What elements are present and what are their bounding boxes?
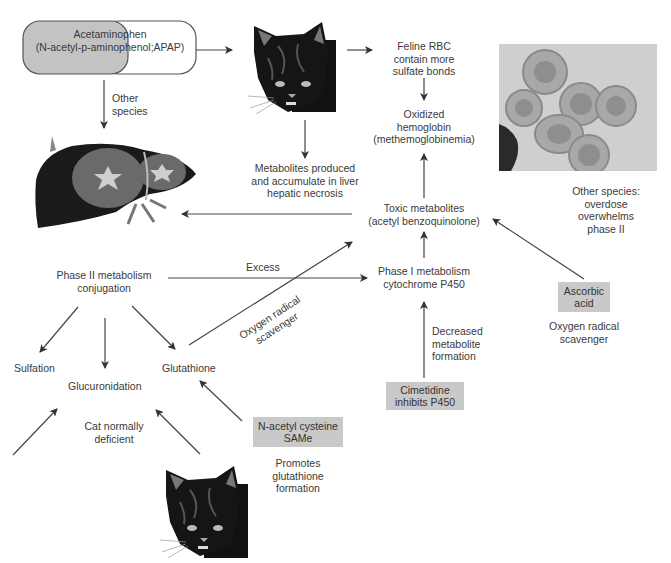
glutathione-label: Glutathione — [162, 362, 216, 375]
cat-top-illustration — [248, 18, 340, 114]
arrow-nac-to-glutathione — [200, 381, 242, 421]
rbc-micrograph — [499, 44, 657, 171]
oxidized-hemoglobin-label: Oxidized hemoglobin (methemoglobinemia) — [366, 108, 482, 146]
metabolites-liver-label: Metabolites produced and accumulate in l… — [230, 162, 380, 200]
feline-rbc-label: Feline RBC contain more sulfate bonds — [366, 40, 482, 78]
liver-illustration — [32, 130, 200, 230]
arrow-phase2-to-sulfation — [40, 307, 78, 352]
other-species-label: Other species — [112, 92, 148, 117]
arrow-cat-to-glucuronidation — [156, 410, 200, 454]
ascorbic-acid-box: Ascorbic acid — [558, 282, 610, 312]
other-species-overdose-label: Other species: overdose overwhelms phase… — [548, 185, 664, 235]
excess-label: Excess — [246, 261, 280, 274]
toxic-metabolites-label: Toxic metabolites (acetyl benzoquinolone… — [352, 202, 496, 227]
promotes-glutathione-label: Promotes glutathione formation — [258, 457, 338, 495]
phase-two-label: Phase II metabolism conjugation — [30, 269, 178, 294]
arrow-bl-to-glucuronidation — [13, 409, 57, 455]
glucuronidation-label: Glucuronidation — [68, 380, 142, 393]
sulfation-label: Sulfation — [14, 362, 55, 375]
ascorbic-note-label: Oxygen radical scavenger — [532, 320, 636, 345]
cat-bottom-illustration — [160, 462, 252, 558]
cimetidine-box: Cimetidine inhibits P450 — [386, 382, 464, 410]
nac-same-box: N-acetyl cysteine SAMe — [253, 417, 343, 447]
decreased-formation-label: Decreased metabolite formation — [432, 325, 483, 363]
acetaminophen-label: Acetaminophen (N-acetyl-p-aminophenol;AP… — [22, 28, 198, 53]
cat-deficient-label: Cat normally deficient — [66, 420, 162, 445]
phase-one-label: Phase I metabolism cytochrome P450 — [364, 265, 484, 290]
arrow-phase2-to-glutathione — [132, 306, 175, 349]
